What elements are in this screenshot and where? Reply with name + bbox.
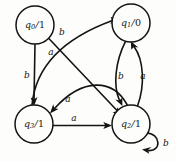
state-label-q1-output: 0 [135,17,141,28]
transition-q2-self-path [146,133,158,151]
transition-q0-q3 [31,44,38,106]
transition-label-q3-q2: a [71,113,76,123]
transition-label-q0-q3: b [24,70,30,80]
transition-q3-q2 [53,122,112,129]
transition-label-q2-self: b [163,138,169,148]
state-label-q3: q3/1 [24,118,44,131]
transition-label-q3-q1: b [59,27,65,37]
state-label-q0-output: 1 [39,19,45,30]
state-label-q3-output: 1 [38,118,44,129]
transition-label-q2-q1: a [140,71,145,81]
transition-label-q2-q3: a [65,94,70,104]
transition-q0-q2-path [49,38,118,111]
state-diagram: q0/1 q1/0 q3/1 q2/1 b a b b a a a b [0,0,176,162]
state-label-q2-output: 1 [135,118,141,129]
state-label-q0: q0/1 [25,19,45,32]
transition-label-q0-q2: a [48,47,53,57]
transition-label-q1-q2: b [118,71,124,81]
state-label-q2: q2/1 [121,118,141,131]
state-label-q1: q1/0 [121,17,141,30]
